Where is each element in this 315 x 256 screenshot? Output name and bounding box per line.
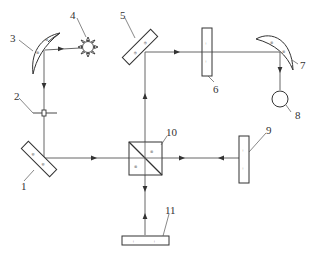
label-11: 11 xyxy=(165,205,176,216)
concave-mirror-3: ⊗ ⊗ xyxy=(33,33,60,74)
beam-arrows xyxy=(42,46,283,219)
flat-mirror-5: ⊗ ⊗ xyxy=(122,29,157,64)
svg-text:+: + xyxy=(205,59,208,64)
light-source-icon xyxy=(78,37,98,57)
label-3: 3 xyxy=(10,33,16,44)
svg-text:+: + xyxy=(242,166,245,171)
aperture-2 xyxy=(33,110,57,116)
svg-text:+: + xyxy=(205,41,208,46)
svg-text:⊗: ⊗ xyxy=(45,37,48,42)
label-6: 6 xyxy=(213,84,219,95)
label-2: 2 xyxy=(14,91,20,102)
svg-text:⊗: ⊗ xyxy=(134,164,137,169)
moving-mirror-11: + + xyxy=(122,236,169,245)
label-4: 4 xyxy=(70,10,76,21)
svg-text:⊗: ⊗ xyxy=(150,149,153,154)
label-10: 10 xyxy=(166,127,177,138)
label-8: 8 xyxy=(295,110,301,121)
fixed-mirror-9: + + xyxy=(239,136,249,183)
svg-text:⊗: ⊗ xyxy=(282,49,285,54)
label-7: 7 xyxy=(300,60,306,71)
svg-text:+: + xyxy=(153,239,156,244)
svg-text:+: + xyxy=(132,239,135,244)
label-1: 1 xyxy=(21,181,27,192)
svg-text:⊗: ⊗ xyxy=(270,40,273,45)
svg-text:⊗: ⊗ xyxy=(36,50,39,55)
window-6: + + xyxy=(202,28,212,76)
detector-8 xyxy=(272,91,288,107)
concave-mirror-7: ⊗ ⊗ xyxy=(256,36,293,70)
svg-text:+: + xyxy=(242,148,245,153)
beam-splitter-10: ⊗ ⊗ xyxy=(129,142,162,175)
label-5: 5 xyxy=(120,10,126,21)
leader-lines xyxy=(19,18,298,236)
label-9: 9 xyxy=(266,125,272,136)
flat-mirror-1: ⊗ ⊗ xyxy=(21,141,56,176)
